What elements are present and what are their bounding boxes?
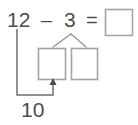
annotation-ten-label: 10 (21, 99, 44, 120)
bond-branch-left-line (53, 34, 71, 47)
minus-sign: – (41, 10, 52, 30)
left-part-box[interactable] (39, 49, 66, 80)
math-worksheet-canvas: 12 – 3 = 10 (0, 0, 138, 125)
right-part-box[interactable] (72, 49, 98, 80)
bond-branch-right-line (71, 34, 86, 47)
minuend-label: 12 (7, 9, 30, 30)
equals-sign: = (86, 10, 98, 30)
subtrahend-label: 3 (64, 9, 76, 30)
answer-box[interactable] (106, 10, 133, 36)
